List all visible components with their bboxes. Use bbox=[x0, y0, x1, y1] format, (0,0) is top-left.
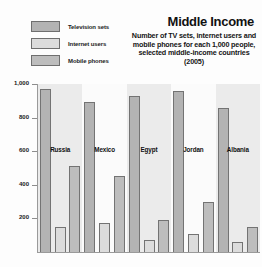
x-axis-line bbox=[37, 252, 260, 253]
bar-mexico-tv bbox=[84, 102, 95, 252]
bar-russia-net bbox=[55, 227, 66, 252]
y-tick-label: 400 bbox=[19, 181, 29, 187]
y-tick-label: 600 bbox=[19, 147, 29, 153]
legend-label-television-sets: Television sets bbox=[68, 24, 109, 30]
legend-label-mobile-phones: Mobile phones bbox=[68, 58, 109, 64]
legend-swatch-television-sets bbox=[31, 21, 60, 32]
legend-swatch-mobile-phones bbox=[31, 55, 60, 66]
bar-jordan-mob bbox=[203, 202, 214, 252]
bar-russia-tv bbox=[40, 89, 51, 252]
bar-group-russia: Russia bbox=[38, 84, 82, 252]
chart-legend: Television sets Internet users Mobile ph… bbox=[31, 20, 136, 71]
bar-jordan-tv bbox=[173, 91, 184, 252]
legend-swatch-internet-users bbox=[31, 38, 60, 49]
y-tick-label: 200 bbox=[19, 214, 29, 220]
bar-jordan-net bbox=[188, 234, 199, 252]
bar-mexico-net bbox=[99, 223, 110, 252]
bar-groups: RussiaMexicoEgyptJordanAlbania bbox=[38, 84, 260, 252]
title-block: Middle Income Number of TV sets, interne… bbox=[130, 15, 258, 66]
bar-egypt-mob bbox=[158, 220, 169, 252]
bar-group-mexico: Mexico bbox=[82, 84, 126, 252]
bar-group-albania: Albania bbox=[216, 84, 260, 252]
legend-item-mobile-phones: Mobile phones bbox=[31, 54, 136, 67]
y-tick-label: 1,000 bbox=[14, 80, 29, 86]
legend-item-internet-users: Internet users bbox=[31, 37, 136, 50]
bar-albania-tv bbox=[218, 108, 229, 252]
y-tick-mark bbox=[32, 118, 37, 119]
bar-albania-net bbox=[232, 242, 243, 252]
bar-group-egypt: Egypt bbox=[127, 84, 171, 252]
bar-egypt-net bbox=[144, 240, 155, 252]
bar-albania-mob bbox=[247, 227, 258, 252]
bar-mexico-mob bbox=[114, 176, 125, 252]
chart-subtitle: Number of TV sets, internet users and mo… bbox=[130, 32, 258, 66]
y-tick-label: 800 bbox=[19, 114, 29, 120]
y-tick-mark bbox=[32, 84, 37, 85]
y-tick-mark bbox=[32, 218, 37, 219]
chart-figure: Television sets Internet users Mobile ph… bbox=[0, 0, 262, 267]
plot-area: 1,000800600400200 RussiaMexicoEgyptJorda… bbox=[38, 84, 260, 252]
legend-label-internet-users: Internet users bbox=[68, 41, 106, 47]
bar-russia-mob bbox=[69, 166, 80, 252]
legend-item-television-sets: Television sets bbox=[31, 20, 136, 33]
bar-group-jordan: Jordan bbox=[171, 84, 215, 252]
bar-egypt-tv bbox=[129, 96, 140, 252]
y-tick-mark bbox=[32, 151, 37, 152]
y-tick-mark bbox=[32, 185, 37, 186]
chart-title: Middle Income bbox=[130, 15, 258, 29]
